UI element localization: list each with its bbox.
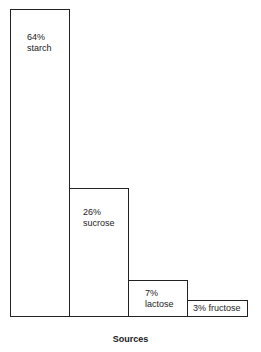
bar-starch: [10, 9, 70, 317]
bar-label-lactose: 7% lactose: [145, 288, 174, 310]
label-name: sucrose: [83, 218, 115, 229]
label-name: starch: [27, 43, 52, 54]
label-name: lactose: [145, 299, 174, 310]
label-pct: 64%: [27, 32, 52, 43]
label-pct: 26%: [83, 207, 115, 218]
x-axis-label: Sources: [0, 334, 261, 344]
label-pct: 7%: [145, 288, 174, 299]
bar-label-starch: 64% starch: [27, 32, 52, 54]
bar-label-sucrose: 26% sucrose: [83, 207, 115, 229]
bar-label-fructose: 3% fructose: [193, 303, 241, 314]
